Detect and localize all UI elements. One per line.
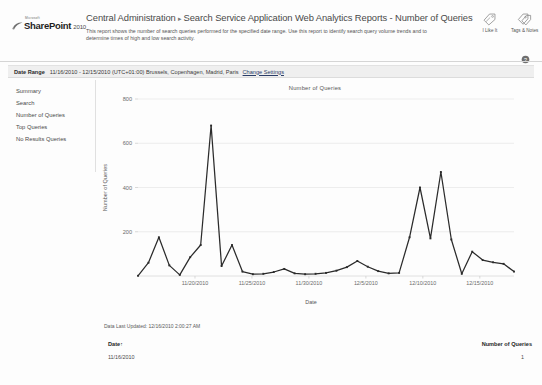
y-axis-tick-label: 600 [123,140,132,146]
column-header-number-of-queries[interactable]: Number of Queries [263,338,534,354]
tag-like-icon [473,11,507,28]
data-point-marker [450,239,452,241]
body-wrapper: Summary Search Number of Queries Top Que… [8,80,534,380]
data-point-marker [158,236,160,238]
date-range-bar: Date Range 11/16/2010 - 12/15/2010 (UTC+… [8,65,534,78]
table-row: 11/16/20101 [104,354,534,362]
data-point-marker [356,260,358,262]
report-content: Number of Queries 200400600800Number of … [96,80,534,380]
breadcrumb-separator-icon: ▸ [176,15,184,22]
report-sidebar: Summary Search Number of Queries Top Que… [8,80,96,172]
data-point-marker [503,263,505,265]
chart-canvas: 200400600800Number of Queries11/20/20101… [96,93,526,298]
breadcrumb-root[interactable]: Central Administration [86,12,176,23]
data-point-marker [409,236,411,238]
breadcrumb-current: Search Service Application Web Analytics… [184,12,473,23]
data-point-marker [252,273,254,275]
x-axis-title: Date [96,299,526,305]
sidebar-item-number-of-queries[interactable]: Number of Queries [8,109,95,121]
data-point-marker [273,271,275,273]
data-point-marker [492,261,494,263]
tags-and-notes-button[interactable]: Tags & Notes [508,11,542,34]
data-line [138,126,514,276]
data-point-marker [241,271,243,273]
data-point-marker [231,244,233,246]
data-point-marker [471,251,473,253]
sidebar-item-no-results-queries[interactable]: No Results Queries [8,133,95,145]
sidebar-item-top-queries[interactable]: Top Queries [8,121,95,133]
x-axis-tick-label: 12/10/2010 [409,280,436,286]
data-point-marker [315,273,317,275]
tags-and-notes-label: Tags & Notes [508,28,542,34]
data-point-marker [294,272,296,274]
chart-title: Number of Queries [96,85,534,91]
y-axis-title: Number of Queries [102,164,108,211]
page-header: Microsoft SharePoint 2010 Central Admini… [0,8,542,56]
social-actions: I Like It Tags & Notes [473,8,542,34]
i-like-it-label: I Like It [473,28,507,34]
sort-ascending-icon: ↑ [120,341,123,347]
data-point-marker [189,256,191,258]
data-point-marker [377,270,379,272]
x-axis-tick-label: 12/5/2010 [354,280,378,286]
y-axis-tick-label: 800 [123,96,132,102]
y-axis-tick-label: 400 [123,185,132,191]
data-point-marker [482,259,484,261]
sidebar-item-summary[interactable]: Summary [8,85,95,97]
data-point-marker [440,171,442,173]
data-point-marker [461,273,463,275]
queries-table-wrapper: Date↑ Number of Queries 11/16/20101 [104,338,534,362]
data-point-marker [419,187,421,189]
table-header-row: Date↑ Number of Queries [104,338,534,354]
data-point-marker [304,273,306,275]
data-point-marker [335,270,337,272]
data-point-marker [200,244,202,246]
sharepoint-logo[interactable]: Microsoft SharePoint 2010 [0,8,86,32]
data-point-marker [147,262,149,264]
sharepoint-swoosh-icon [12,21,23,30]
change-settings-link[interactable]: Change Settings [243,69,284,75]
data-point-marker [137,275,139,277]
data-point-marker [168,264,170,266]
breadcrumb: Central Administration▸Search Service Ap… [86,12,472,25]
x-axis-tick-label: 11/25/2010 [239,280,266,286]
i-like-it-button[interactable]: I Like It [473,11,507,34]
tags-notes-icon [508,11,542,28]
data-point-marker [398,272,400,274]
data-point-marker [283,268,285,270]
report-description: This report shows the number of search q… [86,28,438,42]
sharepoint-year: 2010 [73,22,86,32]
cell-date: 11/16/2010 [104,354,263,362]
y-axis-tick-label: 200 [123,229,132,235]
cell-queries: 1 [263,354,534,362]
sharepoint-wordmark: SharePoint [24,21,71,31]
number-of-queries-chart: 200400600800Number of Queries11/20/20101… [96,93,526,303]
data-point-marker [179,274,181,276]
header-divider [0,61,542,62]
sidebar-item-search[interactable]: Search [8,97,95,109]
data-point-marker [367,266,369,268]
table-body: 11/16/20101 [104,354,534,362]
x-axis-tick-label: 11/20/2010 [182,280,209,286]
column-header-date-label: Date [108,341,120,347]
date-range-value: 11/16/2010 - 12/15/2010 (UTC+01:00) Brus… [50,69,239,75]
x-axis-tick-label: 11/30/2010 [296,280,323,286]
column-header-date[interactable]: Date↑ [104,338,263,354]
help-question-icon[interactable]: ? [521,55,530,64]
data-point-marker [388,272,390,274]
data-point-marker [210,125,212,127]
data-point-marker [221,265,223,267]
data-point-marker [513,271,515,273]
title-block: Central Administration▸Search Service Ap… [86,8,472,42]
x-axis-tick-label: 12/15/2010 [466,280,493,286]
data-point-marker [346,266,348,268]
queries-table: Date↑ Number of Queries 11/16/20101 [104,338,534,362]
data-point-marker [325,272,327,274]
date-range-label: Date Range [14,69,45,75]
data-point-marker [429,237,431,239]
data-point-marker [262,273,264,275]
report-page: Microsoft SharePoint 2010 Central Admini… [0,0,542,385]
data-last-updated: Data Last Updated: 12/16/2010 2:00:27 AM [104,323,200,329]
